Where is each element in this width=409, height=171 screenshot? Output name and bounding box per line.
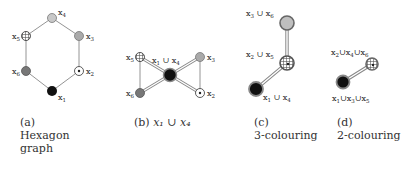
node-x6 (136, 89, 145, 98)
caption-b-math: x₁ ∪ x₄ (153, 116, 190, 129)
label-x2: x2 (86, 67, 94, 77)
label-x2: x2 (207, 89, 215, 99)
node-x2-union-x5-dot (287, 63, 290, 66)
caption-d-line1: 2-colouring (337, 129, 401, 142)
node-x5 (22, 32, 31, 41)
node-x1-union-x4 (164, 69, 177, 82)
caption-c-line1: 3-colouring (254, 129, 318, 142)
caption-d: (d) 2-colouring (337, 116, 401, 142)
label-x1-x3-x5: x1∪x3∪x5 (332, 94, 370, 104)
node-x1 (47, 86, 57, 96)
node-x2-x4-x6-dot (372, 64, 374, 66)
label-x4: x4 (58, 8, 67, 18)
label-x5: x5 (12, 32, 21, 42)
label-x3: x3 (86, 32, 95, 42)
label-x6: x6 (126, 89, 135, 99)
caption-c-tag: (c) (254, 116, 318, 129)
node-x1-x3-x5 (337, 76, 350, 89)
hexagon-edges (26, 18, 79, 91)
node-x6 (22, 67, 31, 76)
label-x1-union-x4: x1 ∪ x4 (152, 56, 180, 66)
node-x3 (75, 32, 84, 41)
caption-a-line2: graph (20, 142, 70, 155)
caption-b: (b) x₁ ∪ x₄ (134, 116, 191, 129)
caption-b-tag: (b) (134, 116, 150, 129)
label-x3-union-x6: x3 ∪ x6 (246, 9, 274, 19)
node-x3 (196, 53, 205, 62)
node-x2-x4-x6 (366, 58, 378, 70)
label-x3: x3 (207, 53, 216, 63)
node-x1-union-x4 (249, 82, 263, 96)
node-x2-dot (78, 70, 80, 72)
node-x2-dot (199, 92, 201, 94)
panel-d-two-colouring: x2∪x4∪x6 x1∪x3∪x5 (331, 48, 378, 104)
label-x1-union-x4: x1 ∪ x4 (263, 93, 291, 103)
label-x2-union-x5: x2 ∪ x5 (246, 50, 274, 60)
label-x1: x1 (58, 93, 66, 103)
label-x2-x4-x6: x2∪x4∪x6 (331, 48, 369, 58)
node-x3-union-x6 (280, 16, 294, 30)
label-x6: x6 (12, 67, 21, 77)
caption-c: (c) 3-colouring (254, 116, 318, 142)
label-x5: x5 (126, 53, 135, 63)
node-x4 (48, 14, 57, 23)
node-x2-union-x5 (280, 56, 294, 70)
panel-c-three-colouring: x3 ∪ x6 x2 ∪ x5 x1 ∪ x4 (246, 9, 294, 103)
caption-a-line1: Hexagon (20, 129, 70, 142)
node-x5 (136, 53, 145, 62)
caption-a: (a) Hexagon graph (20, 116, 70, 155)
panel-a-hexagon-graph: x4 x3 x2 x1 x6 x5 (12, 8, 95, 103)
caption-d-tag: (d) (337, 116, 401, 129)
panel-b-contracted-graph: x1 ∪ x4 x5 x6 x3 x2 (126, 53, 216, 100)
caption-a-tag: (a) (20, 116, 70, 129)
